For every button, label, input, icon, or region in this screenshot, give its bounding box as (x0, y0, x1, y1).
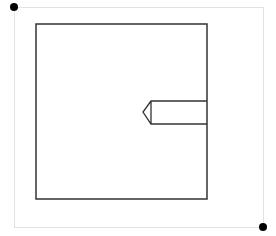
square-shape[interactable] (36, 24, 207, 199)
resize-handle-bottom-right[interactable] (259, 223, 267, 231)
drawing-svg (0, 0, 276, 236)
pencil-tip-shape[interactable] (143, 101, 207, 124)
selection-box[interactable] (15, 8, 264, 228)
resize-handle-top-left[interactable] (10, 3, 18, 11)
drawing-canvas[interactable] (0, 0, 276, 236)
